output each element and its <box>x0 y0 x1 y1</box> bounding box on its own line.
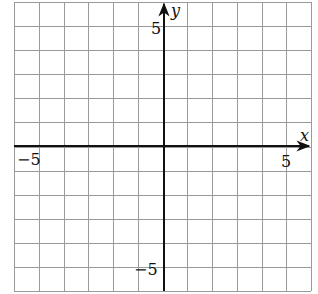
x-tick-label-pos5: 5 <box>281 152 291 171</box>
coordinate-plane: x y −5 5 5 −5 <box>0 0 318 294</box>
y-tick-label-pos5: 5 <box>151 19 161 38</box>
x-axis-label: x <box>300 126 309 145</box>
y-axis-label: y <box>170 1 181 20</box>
y-tick-label-neg5: −5 <box>134 260 158 279</box>
x-tick-label-neg5: −5 <box>17 150 41 169</box>
